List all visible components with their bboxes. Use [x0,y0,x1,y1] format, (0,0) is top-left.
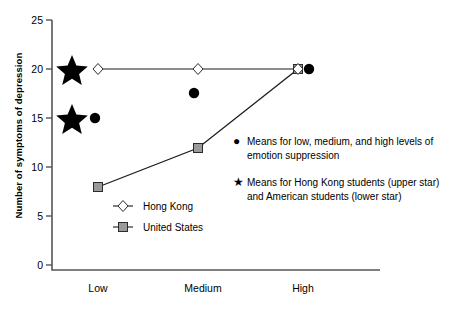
filled-star-icon: ★ [233,176,247,189]
legend-label-hong-kong: Hong Kong [143,201,193,212]
annotation-emotion-suppression-text: Means for low, medium, and high levels o… [247,135,433,162]
y-axis-ticks [46,20,52,265]
annotation-line-1: Means for low, medium, and high levels o… [247,136,433,147]
annotation-student-means-text: Means for Hong Kong students (upper star… [247,176,439,203]
series-markers-united-states [94,65,303,192]
annotation-line-2: and American students (lower star) [247,191,402,202]
series-line-united-states [98,69,298,187]
legend-item-hong-kong: Hong Kong [112,196,203,217]
depression-symptoms-chart: Number of symptoms of depression 25 20 1… [0,0,470,319]
annotation-line-2: emotion suppression [247,150,339,161]
filled-circle-icon: ● [233,135,247,148]
legend-item-united-states: United States [112,217,203,238]
legend-label-united-states: United States [143,222,203,233]
overlay-points-emotion-suppression [90,64,314,123]
annotation-line-1: Means for Hong Kong students (upper star… [247,177,439,188]
annotation-emotion-suppression: ● Means for low, medium, and high levels… [233,135,433,162]
star-point-american-students [56,104,88,134]
star-point-hong-kong-students [56,55,88,85]
legend: Hong Kong United States [112,196,203,238]
annotation-student-means: ★ Means for Hong Kong students (upper st… [233,176,439,203]
